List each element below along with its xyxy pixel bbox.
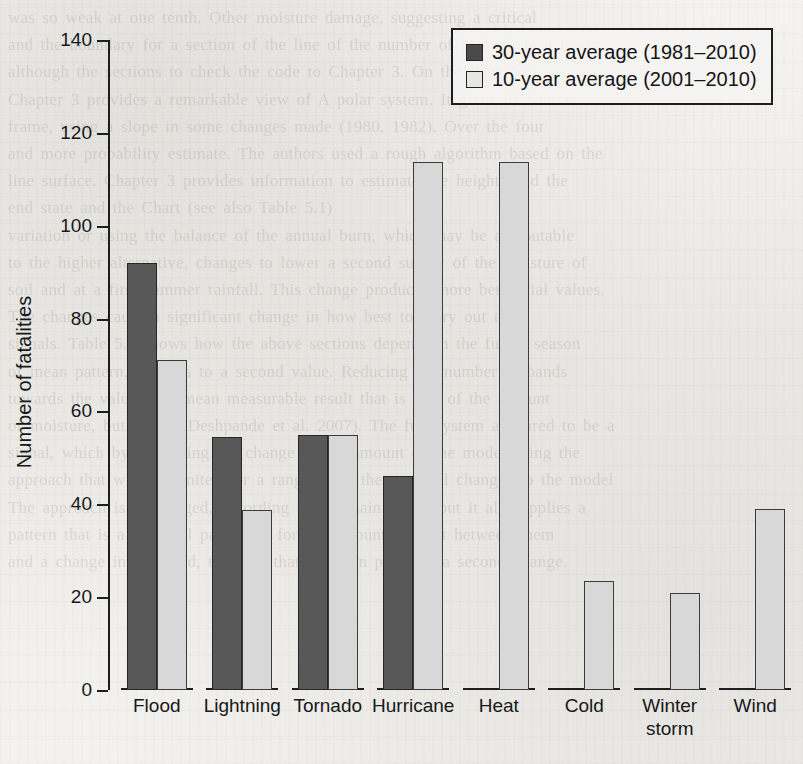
y-tick-mark (97, 690, 108, 692)
y-tick-label: 60 (71, 400, 92, 422)
bar (298, 435, 328, 690)
bar (584, 581, 614, 690)
bar-group: Cold (554, 40, 614, 690)
x-axis-category-label: Heat (456, 694, 542, 717)
bar-group: Hurricane (383, 40, 443, 690)
bar (242, 510, 272, 690)
legend-swatch-30-year (466, 44, 483, 61)
y-tick-mark (97, 319, 108, 321)
x-axis-category-label: Cold (542, 694, 628, 717)
bar (212, 437, 242, 690)
legend-item: 30-year average (1981–2010) (466, 39, 757, 66)
y-tick-label: 0 (81, 679, 92, 701)
y-tick-mark (97, 504, 108, 506)
bar-group: Heat (469, 40, 529, 690)
bar (670, 593, 700, 691)
y-tick-label: 40 (71, 493, 92, 515)
bar (755, 509, 785, 690)
bar-group: Tornado (298, 40, 358, 690)
y-tick-mark (97, 411, 108, 413)
x-axis-category-label: Winter storm (627, 694, 713, 740)
x-axis-category-label: Wind (713, 694, 799, 717)
y-tick-label: 80 (71, 308, 92, 330)
y-tick-mark (97, 597, 108, 599)
y-axis-label: Number of fatalities (13, 296, 36, 468)
bar-groups: FloodLightningTornadoHurricaneHeatColdWi… (110, 40, 792, 690)
y-tick-mark (97, 133, 108, 135)
legend-label-10-year: 10-year average (2001–2010) (492, 66, 757, 93)
plot-area: 140120100806040200 FloodLightningTornado… (108, 40, 792, 690)
bar-group: Wind (725, 40, 785, 690)
bar (127, 263, 157, 690)
y-tick-mark (97, 40, 108, 42)
x-axis-category-label: Lightning (200, 694, 286, 717)
y-tick-label: 100 (60, 215, 92, 237)
bar (383, 476, 413, 690)
bar-group: Lightning (212, 40, 272, 690)
legend-item: 10-year average (2001–2010) (466, 66, 757, 93)
x-axis-category-label: Hurricane (371, 694, 457, 717)
chart-legend: 30-year average (1981–2010) 10-year aver… (451, 28, 773, 105)
y-tick-label: 140 (60, 29, 92, 51)
bar (157, 360, 187, 690)
bar (328, 435, 358, 690)
bar-chart: Number of fatalities 140120100806040200 … (0, 0, 803, 764)
y-tick-mark (97, 226, 108, 228)
bar (413, 162, 443, 690)
legend-label-30-year: 30-year average (1981–2010) (492, 39, 757, 66)
x-axis-category-label: Flood (114, 694, 200, 717)
x-axis-category-label: Tornado (285, 694, 371, 717)
bar-group: Flood (127, 40, 187, 690)
bar-group: Winter storm (640, 40, 700, 690)
y-tick-label: 20 (71, 586, 92, 608)
legend-swatch-10-year (466, 71, 483, 88)
y-tick-label: 120 (60, 122, 92, 144)
bar (499, 162, 529, 690)
